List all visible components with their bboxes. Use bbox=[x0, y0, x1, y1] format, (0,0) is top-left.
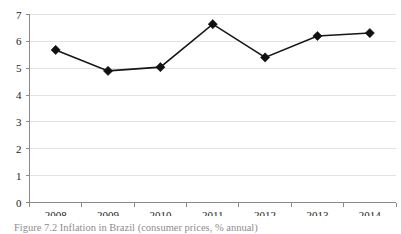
y-axis-label: 6 bbox=[16, 35, 22, 47]
chart-canvas: 01234567 2008200920102011201220132014 bbox=[0, 0, 401, 216]
x-axis-label: 2010 bbox=[149, 209, 172, 217]
y-axis-label: 4 bbox=[16, 89, 22, 101]
figure-container: 01234567 2008200920102011201220132014 Fi… bbox=[0, 0, 401, 234]
y-axis-label: 7 bbox=[16, 9, 22, 21]
x-axis-label: 2009 bbox=[97, 209, 120, 217]
x-axis-label: 2012 bbox=[254, 209, 276, 217]
data-point-marker bbox=[261, 53, 270, 62]
figure-caption: Figure 7.2 Inflation in Brazil (consumer… bbox=[14, 222, 401, 234]
data-point-marker bbox=[51, 45, 60, 54]
x-axis-label: 2008 bbox=[45, 209, 68, 217]
y-axis-label: 5 bbox=[16, 62, 22, 74]
y-axis-label: 2 bbox=[16, 143, 22, 155]
y-axis-label: 3 bbox=[16, 116, 22, 128]
x-axis-label: 2013 bbox=[306, 209, 329, 217]
gridlines bbox=[30, 15, 397, 176]
line-chart: 01234567 2008200920102011201220132014 bbox=[0, 0, 401, 216]
data-point-marker bbox=[103, 66, 112, 75]
data-point-marker bbox=[365, 28, 374, 37]
x-axis-ticks bbox=[30, 203, 397, 207]
y-axis-label: 0 bbox=[16, 197, 22, 209]
data-point-marker bbox=[313, 31, 322, 40]
x-axis-labels: 2008200920102011201220132014 bbox=[45, 209, 382, 217]
series-line-inflation bbox=[56, 24, 370, 71]
y-axis-label: 1 bbox=[16, 170, 22, 182]
x-axis-label: 2011 bbox=[202, 209, 224, 217]
x-axis-label: 2014 bbox=[359, 209, 382, 217]
y-axis-labels: 01234567 bbox=[16, 9, 22, 209]
